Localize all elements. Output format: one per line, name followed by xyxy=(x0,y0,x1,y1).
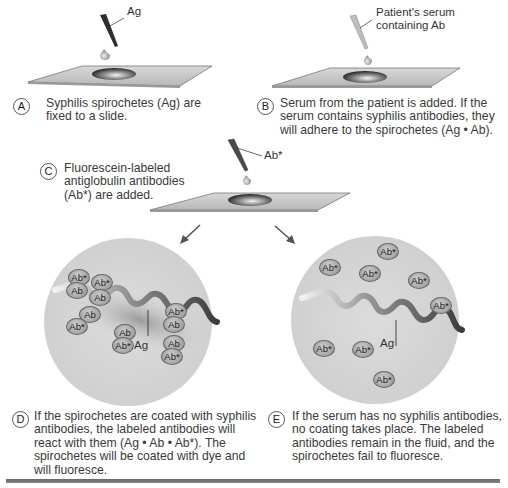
step-letter-b: B xyxy=(257,98,274,115)
caption-e: If the serum has no syphilis antibodies,… xyxy=(292,410,502,464)
caption-b-line: will adhere to the spirochetes (Ag • Ab)… xyxy=(280,124,495,137)
pipette-label-serum-line2: containing Ab xyxy=(376,19,455,32)
antibody-labeled: Ab* xyxy=(352,341,374,358)
bottom-rule xyxy=(6,479,500,483)
spirochete-label-d: Ag xyxy=(134,339,148,351)
pipette-label-serum-line1: Patient's serum xyxy=(376,6,455,19)
antibody-labeled: Ab* xyxy=(66,318,88,335)
caption-d-line: will fluoresce. xyxy=(34,464,256,477)
step-letter-d: D xyxy=(12,411,29,428)
pipette-label-serum: Patient's serum containing Ab xyxy=(376,6,455,32)
pipette-label-ab-star: Ab* xyxy=(264,149,283,161)
antibody-labeled: Ab* xyxy=(377,243,399,260)
spirochete-label-e: Ag xyxy=(380,337,394,349)
caption-d: If the spirochetes are coated with syphi… xyxy=(34,410,256,477)
caption-e-line: no coating takes place. The labeled xyxy=(292,423,502,436)
caption-d-line: If the spirochetes are coated with syphi… xyxy=(34,410,256,423)
antibody-labeled: Ab* xyxy=(408,272,430,289)
slide-a xyxy=(28,14,212,88)
antibody-labeled: Ab* xyxy=(359,265,381,282)
antibody: Ab xyxy=(89,289,111,306)
caption-b-line: serum contains syphilis antibodies, they xyxy=(280,110,495,123)
step-letter-a: A xyxy=(13,98,30,115)
caption-b-line: Serum from the patient is added. If the xyxy=(280,97,495,110)
caption-a: Syphilis spirochetes (Ag) are fixed to a… xyxy=(46,97,201,124)
caption-d-line: spirochetes will be coated with dye and xyxy=(34,450,256,463)
arrow-right xyxy=(275,226,295,244)
caption-a-line: fixed to a slide. xyxy=(46,110,201,123)
caption-e-line: antibodies remain in the fluid, and the xyxy=(292,437,502,450)
antibody-labeled: Ab* xyxy=(313,340,335,357)
caption-a-line: Syphilis spirochetes (Ag) are xyxy=(46,97,201,110)
pipette-label-ag: Ag xyxy=(127,5,141,17)
antibody: Ab xyxy=(163,316,185,333)
antibody-labeled: Ab* xyxy=(319,259,341,276)
antibody-labeled: Ab* xyxy=(373,371,395,388)
caption-c-line: (Ab*) are added. xyxy=(64,189,185,202)
caption-c: Fluorescein-labeled antiglobulin antibod… xyxy=(64,162,185,202)
caption-d-line: react with them (Ag • Ab • Ab*). The xyxy=(34,437,256,450)
antibody-labeled: Ab* xyxy=(112,337,134,354)
caption-c-line: Fluorescein-labeled xyxy=(64,162,185,175)
caption-b: Serum from the patient is added. If the … xyxy=(280,97,495,137)
antibody: Ab xyxy=(66,282,88,299)
step-letter-c: C xyxy=(40,163,57,180)
antibody-labeled: Ab* xyxy=(430,297,452,314)
caption-c-line: antiglobulin antibodies xyxy=(64,175,185,188)
caption-d-line: antibodies, the labeled antibodies will xyxy=(34,423,256,436)
caption-e-line: spirochetes fail to fluoresce. xyxy=(292,450,502,463)
caption-e-line: If the serum has no syphilis antibodies, xyxy=(292,410,502,423)
arrow-left xyxy=(180,225,200,244)
step-letter-e: E xyxy=(268,411,285,428)
antibody-labeled: Ab* xyxy=(161,348,183,365)
